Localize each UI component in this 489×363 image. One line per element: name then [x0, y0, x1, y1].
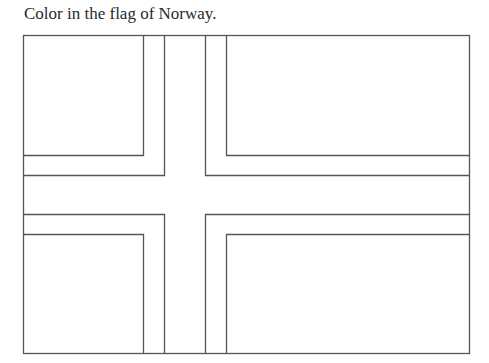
norway-flag-outline — [0, 0, 489, 363]
flag-border — [24, 36, 470, 354]
cross-outer-outline — [24, 36, 470, 354]
cross-inner-outline — [24, 36, 470, 354]
